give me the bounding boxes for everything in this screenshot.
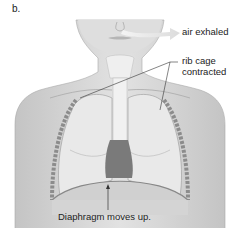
- heart: [105, 140, 133, 178]
- rib-cage-label-line2: contracted: [182, 67, 226, 77]
- trachea: [113, 78, 127, 148]
- rib-cage-label-line1: rib cage: [182, 56, 216, 66]
- diaphragm-label: Diaphragm moves up.: [58, 212, 151, 222]
- air-exhaled-label: air exhaled: [182, 27, 228, 37]
- larynx: [106, 55, 134, 78]
